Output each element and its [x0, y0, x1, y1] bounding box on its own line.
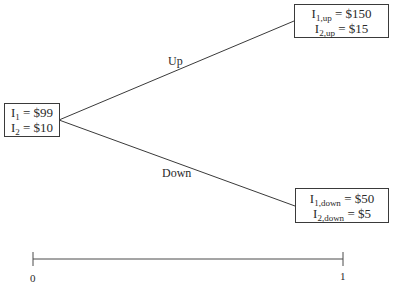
up-row-2: I2,up = $15 — [315, 21, 368, 36]
down-branch-line — [59, 120, 295, 206]
down-branch-label: Down — [162, 166, 191, 181]
timeline-end-label: 1 — [340, 270, 346, 282]
tree-edges — [0, 0, 394, 286]
down-row-2: I2,down = $5 — [313, 206, 371, 221]
up-branch-label: Up — [168, 54, 183, 69]
up-row-1: I1,up = $150 — [312, 6, 372, 21]
up-branch-line — [59, 21, 294, 120]
timeline-start-label: 0 — [30, 272, 36, 284]
root-row-2: I2 = $10 — [11, 120, 53, 135]
down-row-1: I1,down = $50 — [310, 191, 374, 206]
up-node: I1,up = $150 I2,up = $15 — [294, 4, 389, 38]
root-row-1: I1 = $99 — [11, 105, 53, 120]
down-node: I1,down = $50 I2,down = $5 — [295, 188, 389, 223]
root-node: I1 = $99 I2 = $10 — [4, 103, 60, 137]
